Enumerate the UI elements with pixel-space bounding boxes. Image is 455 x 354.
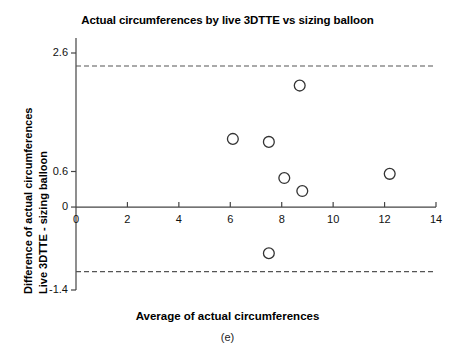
- data-point-4[interactable]: [297, 186, 308, 197]
- x-tick-label-5: 10: [318, 213, 348, 225]
- x-tick-label-0: 0: [61, 213, 91, 225]
- y-tick-label-0: 2.6: [18, 46, 68, 58]
- data-point-6[interactable]: [263, 248, 274, 259]
- data-point-1[interactable]: [263, 136, 274, 147]
- x-tick-label-7: 14: [421, 213, 451, 225]
- data-point-0[interactable]: [227, 134, 238, 145]
- panel-label: (e): [0, 331, 455, 343]
- y-tick-label-1: 0.6: [18, 165, 68, 177]
- x-axis-label: Average of actual circumferences: [0, 310, 455, 322]
- y-tick-label-3: -1.4: [18, 283, 68, 295]
- x-tick-label-6: 12: [370, 213, 400, 225]
- data-point-5[interactable]: [384, 168, 395, 179]
- x-tick-label-2: 4: [164, 213, 194, 225]
- x-tick-label-1: 2: [112, 213, 142, 225]
- y-tick-label-2: 0: [18, 200, 68, 212]
- x-tick-label-3: 6: [215, 213, 245, 225]
- chart-figure: Actual circumferences by live 3DTTE vs s…: [0, 0, 455, 354]
- data-point-3[interactable]: [279, 173, 290, 184]
- scatter-plot-canvas: [0, 0, 455, 354]
- x-tick-label-4: 8: [267, 213, 297, 225]
- data-point-2[interactable]: [294, 80, 305, 91]
